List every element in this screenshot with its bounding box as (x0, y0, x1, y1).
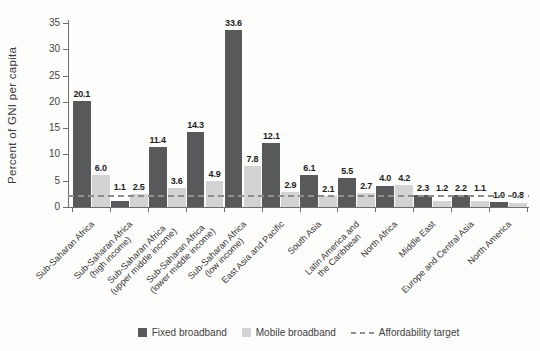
chart-canvas: Percent of GNI per capita 05101520253035… (0, 0, 540, 351)
y-axis-tick-label: 20 (34, 96, 60, 107)
y-axis-tick-label: 35 (34, 17, 60, 28)
y-axis-tick-label: 30 (34, 43, 60, 54)
x-axis-tick (300, 208, 301, 212)
bar-mobile-broadband (244, 166, 262, 207)
y-axis-tick (63, 154, 68, 155)
x-axis-tick (337, 208, 338, 212)
dashed-line-icon (351, 332, 374, 334)
y-axis-tick (63, 181, 68, 182)
y-axis-tick-label: 0 (34, 201, 60, 212)
legend-label-mobile-broadband: Mobile broadband (256, 327, 336, 338)
y-axis-tick (63, 102, 68, 103)
x-axis-tick (489, 208, 490, 212)
bar-mobile-broadband (433, 201, 451, 207)
bar-mobile-broadband (206, 181, 224, 207)
bar-mobile-broadband (509, 203, 527, 207)
bar-value-label: 33.6 (216, 18, 250, 28)
y-axis-tick-label: 5 (34, 175, 60, 186)
mobile-broadband-swatch-icon (242, 328, 251, 337)
x-axis-tick (72, 208, 73, 212)
bar-mobile-broadband (281, 192, 299, 207)
bar-value-label: 20.1 (65, 89, 99, 99)
y-axis-tick (63, 76, 68, 77)
x-axis-tick (224, 208, 225, 212)
x-category-label: North Africa (359, 219, 399, 259)
y-axis-tick-label: 10 (34, 148, 60, 159)
x-axis-line (68, 207, 529, 208)
x-axis-tick (186, 208, 187, 212)
legend-item-affordability-target: Affordability target (351, 327, 459, 338)
y-axis-tick (63, 207, 68, 208)
x-axis-tick (262, 208, 263, 212)
bar-mobile-broadband (471, 201, 489, 207)
legend-item-mobile-broadband: Mobile broadband (242, 327, 336, 338)
x-category-label: Europe and Central Asia (399, 219, 475, 295)
bar-fixed-broadband (225, 30, 243, 207)
bar-fixed-broadband (73, 101, 91, 207)
x-axis-tick (375, 208, 376, 212)
fixed-broadband-swatch-icon (138, 328, 147, 337)
bar-mobile-broadband (168, 188, 186, 207)
x-axis-tick (148, 208, 149, 212)
legend: Fixed broadband Mobile broadband Afforda… (68, 327, 529, 338)
legend-item-fixed-broadband: Fixed broadband (138, 327, 227, 338)
bar-value-label: 6.1 (292, 163, 326, 173)
bar-value-label: 12.1 (254, 131, 288, 141)
y-axis-tick (63, 49, 68, 50)
y-axis-tick-label: 15 (34, 122, 60, 133)
legend-label-affordability-target: Affordability target (379, 327, 459, 338)
bar-fixed-broadband (111, 201, 129, 207)
bar-mobile-broadband (319, 196, 337, 207)
x-axis-tick (527, 208, 528, 212)
bar-fixed-broadband (490, 202, 508, 207)
x-axis-tick (413, 208, 414, 212)
y-axis-title: Percent of GNI per capita (6, 23, 18, 207)
x-category-label: South Asia (286, 219, 324, 257)
y-axis-tick (63, 23, 68, 24)
affordability-target-line (68, 195, 529, 197)
y-axis-tick (63, 128, 68, 129)
bar-value-label: 14.3 (179, 120, 213, 130)
x-category-label: Middle East (397, 219, 437, 259)
x-axis-tick (110, 208, 111, 212)
x-axis-tick (451, 208, 452, 212)
y-axis-line (68, 20, 69, 208)
bar-value-label: 4.2 (387, 173, 421, 183)
y-axis-tick-label: 25 (34, 70, 60, 81)
bar-value-label: 6.0 (84, 163, 118, 173)
bar-value-label: 5.5 (330, 166, 364, 176)
legend-label-fixed-broadband: Fixed broadband (152, 327, 227, 338)
bar-value-label: 11.4 (141, 135, 175, 145)
